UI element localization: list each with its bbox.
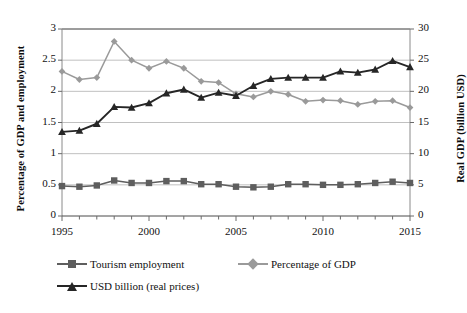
data-point <box>320 97 327 104</box>
data-point <box>285 181 291 187</box>
data-point <box>372 180 378 186</box>
data-point <box>215 181 221 187</box>
data-point <box>146 65 153 72</box>
data-point <box>198 181 204 187</box>
y-axis-right-tick-label: 25 <box>418 52 448 64</box>
series-2 <box>58 57 414 135</box>
data-point <box>111 177 117 183</box>
y-axis-right-tick-label: 5 <box>418 177 448 189</box>
x-axis-tick-label: 2000 <box>124 225 174 237</box>
data-point <box>320 182 326 188</box>
y-axis-right-tick-label: 30 <box>418 21 448 33</box>
data-point <box>163 178 169 184</box>
y-axis-right-tick-label: 0 <box>418 208 448 220</box>
y-axis-right-title: Real GDP (billion USD) <box>455 24 466 234</box>
x-axis-tick-label: 2005 <box>211 225 261 237</box>
y-axis-left-tick-label: 0.5 <box>10 177 56 189</box>
x-axis-tick-label: 2010 <box>298 225 348 237</box>
data-point <box>93 74 100 81</box>
data-point <box>59 68 66 75</box>
data-point <box>94 182 100 188</box>
data-point <box>389 97 396 104</box>
legend-square-icon <box>57 258 87 270</box>
y-axis-left-tick-label: 0 <box>10 208 56 220</box>
data-point <box>250 94 257 101</box>
data-point <box>354 101 361 108</box>
data-point <box>145 99 153 106</box>
y-axis-right-tick-label: 10 <box>418 146 448 158</box>
data-point <box>250 184 256 190</box>
data-point <box>59 183 65 189</box>
legend-triangle-icon <box>57 280 87 292</box>
data-point <box>181 178 187 184</box>
data-point <box>407 180 413 186</box>
legend-item-0[interactable]: Tourism employment <box>57 258 184 270</box>
legend-diamond-icon <box>238 258 268 270</box>
data-point <box>337 182 343 188</box>
data-point <box>337 97 344 104</box>
data-point <box>76 184 82 190</box>
data-point <box>76 76 83 83</box>
legend-item-2[interactable]: USD billion (real prices) <box>57 280 199 292</box>
x-axis-tick-label: 1995 <box>37 225 87 237</box>
y-axis-left-tick-label: 3 <box>10 21 56 33</box>
data-point <box>267 88 274 95</box>
data-point <box>407 104 414 111</box>
data-point <box>302 181 308 187</box>
data-point <box>372 98 379 105</box>
legend-item-1[interactable]: Percentage of GDP <box>238 258 356 270</box>
data-point <box>302 98 309 105</box>
y-axis-left-tick-label: 1.5 <box>10 115 56 127</box>
legend-item-label: Percentage of GDP <box>271 258 356 270</box>
y-axis-right-tick-label: 20 <box>418 83 448 95</box>
y-axis-left-tick-label: 2.5 <box>10 52 56 64</box>
data-point <box>163 58 170 65</box>
series-0 <box>59 177 413 190</box>
data-point <box>389 179 395 185</box>
x-axis-tick-label: 2015 <box>385 225 435 237</box>
y-axis-left-tick-label: 1 <box>10 146 56 158</box>
chart-figure: Percentage of GDP and employment Real GD… <box>0 0 467 313</box>
legend-item-label: Tourism employment <box>90 258 184 270</box>
data-point <box>146 180 152 186</box>
data-point <box>268 184 274 190</box>
data-point <box>355 181 361 187</box>
legend-item-label: USD billion (real prices) <box>90 280 199 292</box>
data-point <box>233 184 239 190</box>
data-point <box>128 180 134 186</box>
y-axis-right-tick-label: 15 <box>418 115 448 127</box>
data-point <box>285 91 292 98</box>
y-axis-left-tick-label: 2 <box>10 83 56 95</box>
